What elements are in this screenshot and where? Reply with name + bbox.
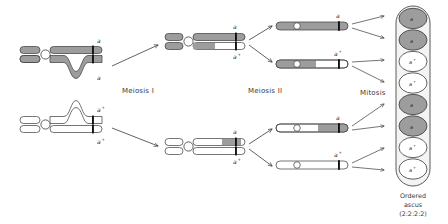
ascospore-4-sup: + — [413, 80, 416, 84]
meiosis1-product-top: a a + — [165, 23, 245, 60]
svg-text:+: + — [102, 105, 106, 110]
mi-top-chromatid2-left — [165, 43, 183, 50]
mi-bot-label-a: a — [233, 128, 237, 135]
ascospore-2-label: a — [410, 38, 413, 44]
allele-label-aplus-1: a + — [97, 105, 106, 113]
marker-band-mi-bot-2 — [235, 147, 237, 156]
marker-band-mii2 — [338, 59, 340, 69]
mi-top-label-aplus: a + — [233, 52, 242, 60]
marker-band-mi-top-1 — [235, 33, 237, 42]
bivalent-upper: a a — [20, 37, 102, 81]
arrow-to-meiosis2-3 — [249, 129, 272, 144]
ascospore-2: a — [399, 30, 427, 50]
svg-text:a: a — [97, 138, 101, 145]
marker-band-mi-top-2 — [235, 42, 237, 51]
centromere-mi-top — [184, 37, 193, 46]
chromatid-w-lower-left-arm — [20, 126, 40, 133]
svg-text:a: a — [233, 158, 237, 165]
marker-band-4 — [92, 125, 94, 134]
chromatid-lower-crossover-strand — [50, 56, 102, 79]
ascospore-7-sup: + — [413, 144, 416, 148]
meiosis2-product-2: a + — [276, 49, 348, 69]
allele-label-a-1: a — [97, 37, 101, 44]
mitosis-arrow-2 — [352, 28, 384, 38]
ascospore-8-sup: + — [413, 166, 416, 170]
meiosis2-product-4: a + — [276, 150, 348, 170]
ascospore-4: a + — [399, 73, 427, 93]
centromere-lower-bivalent — [41, 120, 50, 129]
centromere-mii1 — [294, 23, 301, 30]
ascospore-5-label: a — [410, 102, 413, 108]
marker-band-3 — [92, 116, 94, 125]
svg-text:a: a — [334, 50, 338, 57]
caption-line-2: ascus — [404, 201, 423, 209]
allele-label-a-2: a — [97, 74, 101, 81]
ascospore-6: a — [399, 116, 427, 136]
centromere-mii2 — [294, 61, 301, 68]
chromatid-w-upper-left-arm — [20, 117, 40, 124]
chromatid-lower-left-arm-cap — [20, 56, 40, 63]
mitosis-arrow-5 — [352, 104, 384, 126]
mi-bot-chromatid2-left — [165, 148, 183, 155]
meiosis2-product-1: a — [276, 12, 348, 31]
mi-bot-chromatid1-distal-gray — [222, 139, 241, 145]
mitosis-arrow-8 — [352, 167, 384, 170]
mii4-label-aplus: a + — [334, 150, 343, 158]
caption-line-1: Ordered — [400, 192, 426, 200]
mitosis-arrow-3 — [352, 60, 384, 62]
meiosis1-product-bottom: a a + — [165, 128, 245, 165]
centromere-mii4 — [294, 162, 301, 169]
centromere-upper-bivalent — [41, 50, 50, 59]
chromatid-w-upper-crossover-strand — [50, 101, 102, 124]
stage-label-meiosis-2: Meiosis II — [248, 87, 282, 95]
svg-text:+: + — [339, 49, 343, 54]
svg-text:+: + — [238, 52, 242, 57]
arrow-to-meiosis2-1 — [249, 26, 272, 40]
arrow-to-meiosis1-bottom — [112, 128, 158, 146]
marker-band-mii1 — [338, 21, 340, 31]
mii3-label-a: a — [336, 114, 340, 121]
marker-band-mii3 — [338, 123, 340, 133]
mi-top-chromatid2-proximal-gray — [193, 43, 215, 49]
meiosis2-product-3: a — [276, 114, 348, 133]
svg-text:a: a — [97, 106, 101, 113]
arrow-to-meiosis2-4 — [249, 149, 272, 166]
mii1-label-a: a — [336, 12, 340, 19]
ascospore-3: a + — [399, 51, 427, 71]
mi-bot-label-aplus: a + — [233, 157, 242, 165]
ascospore-8-label: a — [409, 167, 412, 173]
ascospore-3-label: a — [409, 59, 412, 65]
mii3-distal-gray — [318, 124, 348, 132]
ordered-ascus: a a a + a + a a a — [396, 6, 430, 186]
mi-top-chromatid1-left — [165, 34, 183, 41]
ascospore-3-sup: + — [413, 58, 416, 62]
svg-text:+: + — [102, 137, 106, 142]
ascospore-5: a — [399, 94, 427, 114]
mi-top-label-a: a — [233, 23, 237, 30]
marker-band-mi-bot-1 — [235, 138, 237, 147]
svg-text:a: a — [334, 151, 338, 158]
mi-top-chromatid1-right — [193, 34, 245, 41]
mi-bot-chromatid1-left — [165, 139, 183, 146]
mii2-label-aplus: a + — [334, 49, 343, 57]
centromere-mi-bottom — [184, 142, 193, 151]
ascospore-1-label: a — [410, 16, 413, 22]
chromatid-upper-right-arm — [50, 47, 102, 54]
ascospore-4-label: a — [409, 81, 412, 87]
marker-band-mii4 — [338, 160, 340, 170]
chromatid-w-lower-right-arm — [50, 126, 102, 133]
figure-canvas: a a a + a + a a — [0, 0, 448, 224]
mitosis-arrow-6 — [352, 126, 384, 130]
mi-bot-chromatid2-right — [193, 148, 245, 155]
mii4-body — [276, 161, 348, 169]
stage-label-mitosis: Mitosis — [360, 89, 386, 97]
ascospore-8: a + — [399, 159, 427, 179]
meiosis-crossover-diagram: a a a + a + a a — [0, 0, 448, 224]
svg-text:+: + — [238, 157, 242, 162]
ascospore-1: a — [399, 8, 427, 28]
mitosis-arrow-7 — [352, 148, 384, 163]
mii1-body — [276, 22, 348, 30]
mitosis-arrow-1 — [352, 16, 384, 24]
allele-label-aplus-2: a + — [97, 137, 106, 145]
mitosis-arrow-4 — [352, 66, 384, 82]
